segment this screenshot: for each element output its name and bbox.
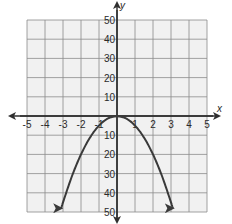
x-tick-label: -2 xyxy=(77,119,86,130)
y-tick-label: 50 xyxy=(104,15,116,26)
x-axis-label: x xyxy=(216,103,223,114)
x-tick-label: 5 xyxy=(204,119,210,130)
y-tick-label: 30 xyxy=(104,53,116,64)
x-tick-label: 4 xyxy=(186,119,192,130)
y-axis-label: y xyxy=(119,0,126,11)
y-tick-label: 20 xyxy=(104,73,116,84)
y-tick-label: 40 xyxy=(104,188,116,199)
x-tick-label: -4 xyxy=(41,119,50,130)
y-tick-label: 50 xyxy=(104,207,116,218)
parabola-chart: -5-4-3-2-112345 50403020101020304050 x y xyxy=(0,0,232,224)
y-tick-label: 40 xyxy=(104,34,116,45)
y-tick-label: 20 xyxy=(104,149,116,160)
y-tick-label: 30 xyxy=(104,169,116,180)
y-tick-label: 10 xyxy=(104,92,116,103)
x-tick-label: -5 xyxy=(23,119,32,130)
x-tick-label: -3 xyxy=(59,119,68,130)
x-tick-label: 2 xyxy=(150,119,156,130)
y-tick-label: 10 xyxy=(104,130,116,141)
x-tick-label: 3 xyxy=(168,119,174,130)
